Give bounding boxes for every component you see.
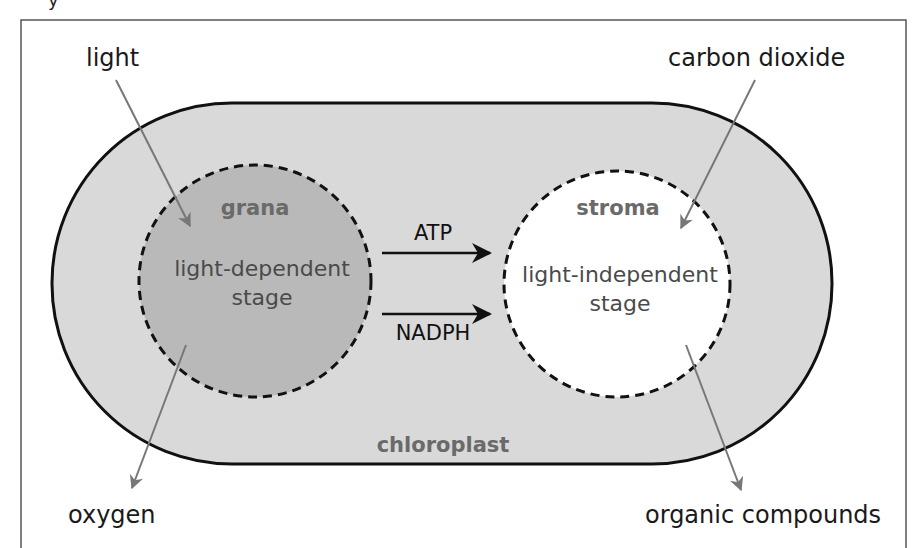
- stroma-stage-line1: light-independent: [522, 262, 718, 287]
- nadph-label: NADPH: [396, 321, 471, 345]
- grana-label: grana: [221, 196, 290, 220]
- output-organic-compounds-label: organic compounds: [645, 501, 881, 529]
- input-carbon-dioxide-label: carbon dioxide: [668, 44, 845, 72]
- title-fragment: y: [48, 0, 59, 10]
- photosynthesis-diagram: y grana light-dependent stage stroma lig…: [0, 0, 920, 548]
- chloroplast-label: chloroplast: [377, 433, 510, 457]
- stroma-label: stroma: [576, 196, 659, 220]
- output-oxygen-label: oxygen: [68, 501, 156, 529]
- stroma-stage-line2: stage: [589, 291, 650, 316]
- grana-stage-line1: light-dependent: [174, 256, 350, 281]
- atp-label: ATP: [414, 221, 452, 245]
- grana-stage-line2: stage: [231, 285, 292, 310]
- input-light-label: light: [86, 44, 139, 72]
